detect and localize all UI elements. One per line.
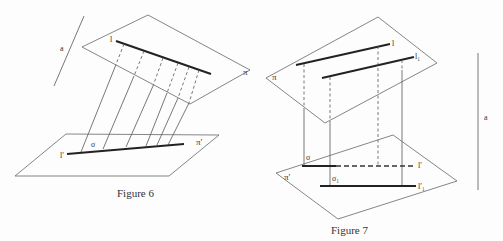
plane-pi-prime xyxy=(15,134,219,176)
direction-label-a: a xyxy=(60,44,64,53)
line-l xyxy=(116,41,211,74)
direction-line-a xyxy=(54,16,84,86)
projector-dashed xyxy=(189,70,199,103)
projector-dashed xyxy=(178,67,189,98)
projector xyxy=(168,103,189,145)
projector xyxy=(157,98,178,145)
figure-7: π l l₁ π′ l′ l′₁ σ σ₁ a Figure 7 xyxy=(266,17,488,236)
projector-dashed xyxy=(115,44,124,67)
plane-pi-prime xyxy=(276,135,457,219)
line-l1 xyxy=(322,57,414,78)
projector-dashed xyxy=(134,51,144,76)
plane-pi-label: π xyxy=(272,72,277,82)
figure-sheet: a π l π′ l′ σ Figure 6 π xyxy=(0,0,503,241)
line-l-label: l xyxy=(110,35,113,44)
line-l-prime xyxy=(67,144,184,154)
line-l-label: l xyxy=(392,39,395,48)
projector xyxy=(146,93,167,146)
projector xyxy=(103,76,134,149)
sigma1-label: σ₁ xyxy=(332,174,339,183)
figure-6-caption: Figure 6 xyxy=(117,187,154,199)
figure-6: a π l π′ l′ σ Figure 6 xyxy=(15,15,250,199)
plane-pi-label: π xyxy=(243,67,248,77)
sigma-label: σ xyxy=(306,153,311,162)
projector-dashed xyxy=(153,58,163,86)
line-l1-prime-label: l′₁ xyxy=(418,182,425,191)
plane-pi xyxy=(82,15,250,104)
line-l1-label: l₁ xyxy=(415,52,420,61)
figure-7-caption: Figure 7 xyxy=(331,224,368,236)
line-l xyxy=(296,44,390,65)
direction-label-a: a xyxy=(484,113,488,122)
projector-dashed xyxy=(167,63,178,93)
plane-pi-prime-label: π′ xyxy=(196,137,203,147)
line-l-prime-label: l′ xyxy=(60,151,64,160)
projector xyxy=(81,67,115,152)
line-l-prime-label: l′ xyxy=(418,161,422,170)
plane-pi xyxy=(266,17,437,123)
plane-pi-prime-label: π′ xyxy=(284,172,291,182)
sigma-label: σ xyxy=(91,140,96,149)
